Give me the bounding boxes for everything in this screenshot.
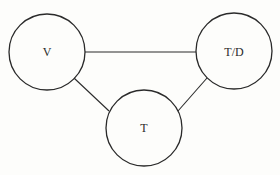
triangle-graph-diagram: V T/D T — [0, 0, 280, 175]
node-t-label: T — [140, 121, 148, 135]
edge-v-t — [74, 78, 109, 111]
node-t: T — [106, 90, 182, 166]
node-td-label: T/D — [224, 45, 244, 59]
edge-td-t — [178, 78, 207, 111]
node-v-label: V — [43, 45, 52, 59]
node-td: T/D — [196, 13, 272, 89]
node-v: V — [9, 14, 85, 90]
